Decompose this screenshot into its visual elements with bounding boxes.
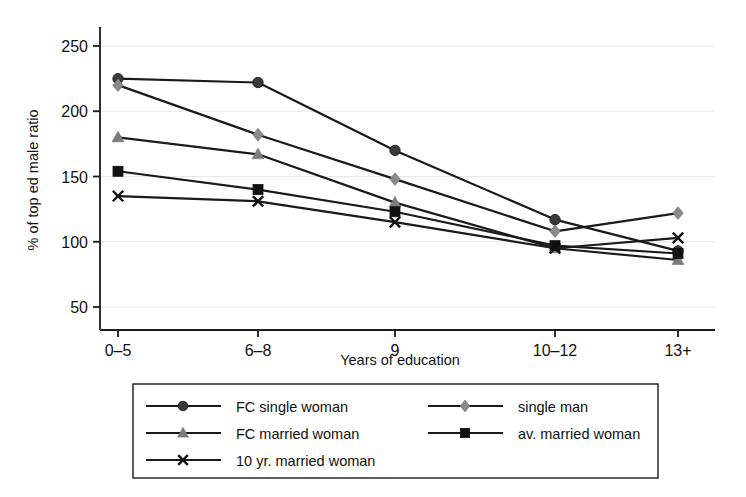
x-tick-label: 10–12 — [533, 342, 578, 359]
y-tick-label: 250 — [61, 38, 88, 55]
marker-square — [390, 207, 400, 217]
x-tick-label: 13+ — [664, 342, 691, 359]
marker-circle — [178, 401, 188, 411]
y-axis-title: % of top ed male ratio — [25, 109, 41, 250]
legend-label: FC single woman — [236, 399, 348, 415]
marker-circle — [550, 214, 560, 224]
marker-circle — [253, 77, 263, 87]
y-tick-label: 100 — [61, 234, 88, 251]
marker-square — [673, 248, 683, 258]
chart-legend: FC single womansingle manFC married woma… — [133, 384, 658, 478]
line-chart: 50100150200250 0–56–8910–1213+ % of top … — [0, 0, 746, 497]
marker-square — [460, 428, 469, 437]
legend-label: 10 yr. married woman — [236, 453, 375, 469]
x-axis-title: Years of education — [340, 352, 460, 368]
legend-label: av. married woman — [518, 426, 640, 442]
marker-square — [113, 166, 123, 176]
marker-circle — [390, 145, 400, 155]
x-tick-label: 6–8 — [245, 342, 272, 359]
y-tick-label: 200 — [61, 103, 88, 120]
legend-label: single man — [518, 399, 588, 415]
x-tick-label: 0–5 — [105, 342, 132, 359]
legend-label: FC married woman — [236, 426, 359, 442]
y-tick-label: 150 — [61, 169, 88, 186]
y-tick-label: 50 — [70, 299, 88, 316]
marker-square — [253, 185, 263, 195]
chart-figure: 50100150200250 0–56–8910–1213+ % of top … — [0, 0, 746, 497]
